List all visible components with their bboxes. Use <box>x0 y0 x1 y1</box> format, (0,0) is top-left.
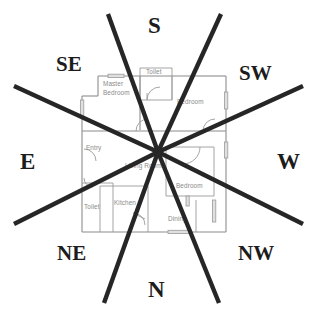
ray-boundary-sw-w <box>158 86 303 152</box>
ray-boundary-w-nw <box>158 152 303 224</box>
ray-boundary-s-sw <box>158 14 221 152</box>
compass-rays <box>14 14 303 303</box>
compass-ray-overlay <box>0 0 315 317</box>
ray-boundary-n-nw <box>158 152 219 303</box>
floor-plan-compass-diagram: Master Bedroom Toilet Bedroom Entry Livi… <box>0 0 315 317</box>
